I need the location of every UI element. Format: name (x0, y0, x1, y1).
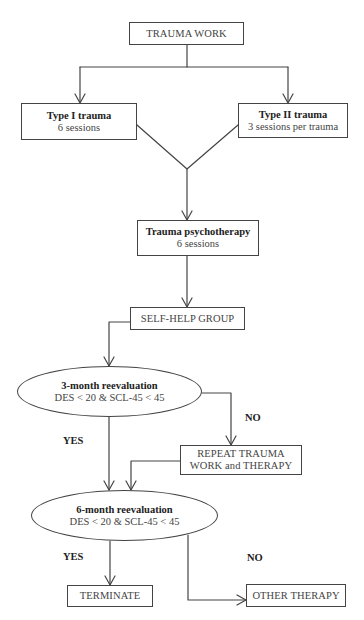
node-3-month-reevaluation: 3-month reevaluation DES < 20 & SCL-45 <… (17, 366, 202, 417)
node-title: Type II trauma (259, 109, 328, 121)
edge-merge (137, 125, 238, 169)
node-repeat-trauma-work: REPEAT TRAUMA WORK and THERAPY (180, 445, 302, 475)
node-other-therapy: OTHER THERAPY (246, 584, 346, 607)
node-label: TRAUMA WORK (146, 28, 227, 40)
edge-label-no: NO (247, 552, 263, 563)
node-trauma-work: TRAUMA WORK (129, 22, 244, 45)
node-label: TERMINATE (80, 590, 140, 602)
edge-repeat-to-reeval6 (131, 461, 180, 490)
node-title: Trauma psychotherapy (146, 226, 251, 238)
node-label-line2: WORK and THERAPY (190, 460, 292, 472)
node-subtitle: DES < 20 & SCL-45 < 45 (70, 516, 180, 528)
node-title: 3-month reevaluation (61, 380, 157, 392)
edge-label-yes: YES (63, 435, 83, 446)
node-trauma-psychotherapy: Trauma psychotherapy 6 sessions (137, 220, 259, 256)
node-6-month-reevaluation: 6-month reevaluation DES < 20 & SCL-45 <… (31, 490, 218, 541)
edge-reeval6-no (188, 535, 246, 600)
node-subtitle: 3 sessions per trauma (248, 121, 338, 133)
edge-label-yes: YES (63, 551, 83, 562)
node-label-line1: REPEAT TRAUMA (197, 448, 285, 460)
node-label: SELF-HELP GROUP (141, 313, 235, 325)
node-type1-trauma: Type I trauma 6 sessions (21, 103, 137, 140)
node-title: Type I trauma (47, 110, 112, 122)
node-label: OTHER THERAPY (252, 590, 339, 602)
node-terminate: TERMINATE (67, 585, 153, 607)
node-subtitle: DES < 20 & SCL-45 < 45 (55, 392, 165, 404)
node-self-help-group: SELF-HELP GROUP (130, 307, 245, 330)
node-title: 6-month reevaluation (76, 504, 172, 516)
flowchart: TRAUMA WORK Type I trauma 6 sessions Typ… (0, 0, 364, 620)
node-subtitle: 6 sessions (58, 122, 100, 134)
edge-label-no: NO (245, 412, 261, 423)
node-subtitle: 6 sessions (177, 238, 219, 250)
node-type2-trauma: Type II trauma 3 sessions per trauma (238, 103, 348, 138)
